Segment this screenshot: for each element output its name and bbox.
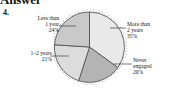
- pie-label-more-than-2-years-value: 35%: [127, 33, 171, 39]
- pie-chart: Less than 1 year 24% 1–2 years 21% More …: [0, 0, 171, 89]
- pie-label-less-than-1-year-value: 24%: [17, 27, 59, 33]
- pie-label-never-engaged: Never engaged 20%: [133, 57, 171, 75]
- pie-slice-less-than-1-year[interactable]: [55, 12, 90, 47]
- pie-label-1-2-years: 1–2 years 21%: [4, 50, 52, 62]
- pie-label-less-than-1-year: Less than 1 year 24%: [17, 15, 59, 33]
- pie-label-never-engaged-value: 20%: [133, 69, 171, 75]
- pie-label-more-than-2-years: More than 2 years 35%: [127, 21, 171, 39]
- pie-label-1-2-years-value: 21%: [4, 56, 52, 62]
- page-root: Answer 4.: [0, 0, 171, 89]
- pie-chart-svg: [0, 0, 171, 89]
